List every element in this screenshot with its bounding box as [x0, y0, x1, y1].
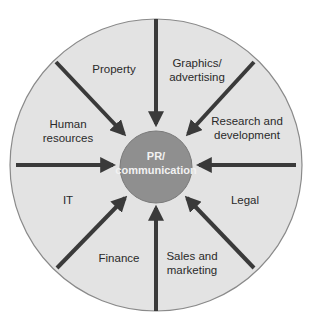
center-label-line1: PR/ [115, 149, 196, 163]
segment-label: Property [92, 62, 135, 76]
segment-label: advertising [169, 70, 225, 84]
segment-label: IT [63, 193, 73, 207]
segment-label: resources [43, 131, 94, 145]
segment-property: Property [92, 62, 135, 76]
segment-label: development [211, 128, 283, 142]
segment-label: Research and [211, 114, 283, 128]
segment-label: marketing [166, 263, 217, 277]
segment-legal: Legal [231, 193, 259, 207]
segment-sales-marketing: Sales and marketing [166, 249, 217, 277]
segment-finance: Finance [99, 251, 140, 265]
segment-label: Sales and [166, 249, 217, 263]
segment-label: Graphics/ [169, 56, 225, 70]
center-label-line2: communication [115, 163, 196, 177]
segment-label: Human [43, 117, 94, 131]
segment-human-resources: Human resources [43, 117, 94, 145]
segment-graphics-advertising: Graphics/ advertising [169, 56, 225, 84]
segment-it: IT [63, 193, 73, 207]
segment-label: Finance [99, 251, 140, 265]
segment-research-development: Research and development [211, 114, 283, 142]
segment-label: Legal [231, 193, 259, 207]
center-label: PR/ communication [115, 149, 196, 177]
